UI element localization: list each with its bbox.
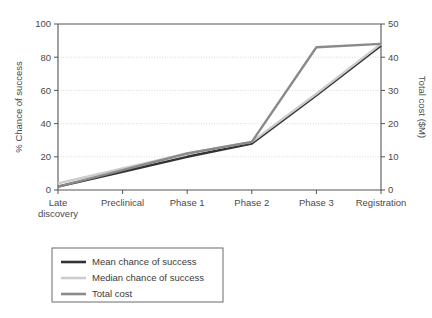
right-axis-ticks: 01020304050	[381, 18, 399, 195]
plot-frame	[58, 24, 381, 190]
category-labels: LatediscoveryPreclinicalPhase 1Phase 2Ph…	[38, 197, 406, 219]
legend-label: Mean chance of success	[92, 256, 197, 267]
category-label: Phase 1	[170, 197, 205, 208]
right-tick-label: 0	[388, 184, 393, 195]
line-chart: 020406080100 01020304050 LatediscoveryPr…	[0, 0, 432, 318]
right-tick-label: 30	[388, 85, 399, 96]
series-lines	[58, 44, 381, 187]
legend: Mean chance of successMedian chance of s…	[52, 248, 223, 302]
chart-container: 020406080100 01020304050 LatediscoveryPr…	[0, 0, 432, 318]
category-label: Latediscovery	[38, 197, 78, 219]
left-tick-label: 0	[46, 184, 51, 195]
right-tick-label: 50	[388, 18, 399, 29]
right-tick-label: 20	[388, 118, 399, 129]
category-label: Phase 3	[299, 197, 334, 208]
right-tick-label: 40	[388, 52, 399, 63]
category-label: Registration	[356, 197, 407, 208]
left-tick-label: 100	[35, 18, 51, 29]
left-axis-ticks: 020406080100	[35, 18, 58, 195]
left-tick-label: 20	[40, 151, 51, 162]
left-tick-label: 40	[40, 118, 51, 129]
right-axis-title: Total cost ($M)	[417, 76, 428, 138]
left-axis-title: % Chance of success	[13, 61, 24, 153]
category-ticks	[58, 190, 381, 194]
legend-label: Median chance of success	[92, 272, 204, 283]
series-line	[58, 44, 381, 183]
left-tick-label: 60	[40, 85, 51, 96]
category-label: Preclinical	[101, 197, 144, 208]
legend-label: Total cost	[92, 288, 132, 299]
gridlines	[58, 57, 381, 157]
series-line	[58, 46, 381, 187]
category-label: Phase 2	[234, 197, 269, 208]
right-tick-label: 10	[388, 151, 399, 162]
series-line	[58, 44, 381, 187]
left-tick-label: 80	[40, 52, 51, 63]
